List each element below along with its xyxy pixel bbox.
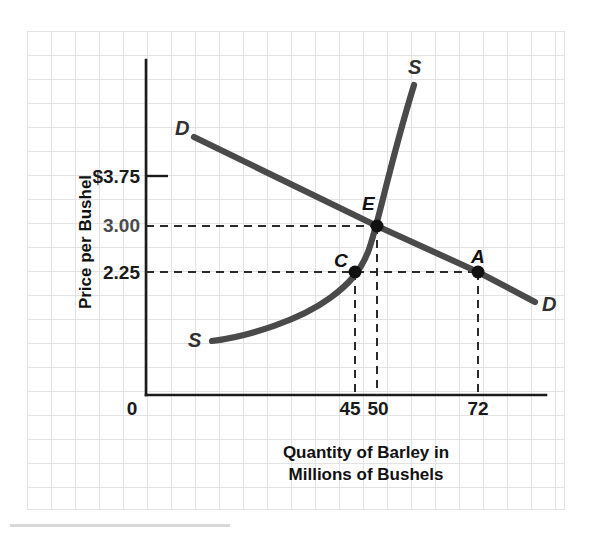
demand-curve xyxy=(194,137,535,302)
y-tick-label-300: 3.00 xyxy=(58,216,140,235)
x-tick-label-72: 72 xyxy=(463,399,493,418)
demand-curve-label-end: D xyxy=(542,294,556,314)
x-tick-label-45: 45 xyxy=(335,399,365,418)
origin-label: 0 xyxy=(117,399,147,418)
point-c-marker xyxy=(349,266,362,279)
y-tick-label-375: $3.75 xyxy=(58,167,140,186)
x-axis-title-line-1: Quantity of Barley in xyxy=(196,442,536,464)
supply-curve xyxy=(212,85,414,341)
footer-rule xyxy=(10,524,230,527)
x-axis-title: Quantity of Barley in Millions of Bushel… xyxy=(196,442,536,486)
y-tick-label-225: 2.25 xyxy=(58,263,140,282)
point-e-marker xyxy=(371,220,384,233)
supply-curve-label-end: S xyxy=(408,57,421,77)
chart-figure: Price per Bushel Quantity of Barley in M… xyxy=(0,0,595,536)
point-label-c: C xyxy=(334,251,348,270)
supply-curve-label-start: S xyxy=(188,330,201,350)
x-tick-label-50: 50 xyxy=(363,399,393,418)
x-axis-title-line-2: Millions of Bushels xyxy=(196,464,536,486)
demand-curve-label-start: D xyxy=(175,118,189,138)
point-a-marker xyxy=(472,266,485,279)
point-label-e: E xyxy=(362,194,375,213)
point-label-a: A xyxy=(471,247,485,266)
